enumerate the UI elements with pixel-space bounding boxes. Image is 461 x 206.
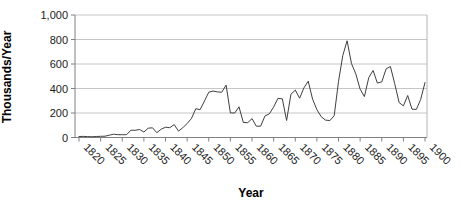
x-tick-label: 1900 bbox=[428, 141, 454, 167]
x-tick-label: 1895 bbox=[406, 141, 432, 167]
y-tick-label: 0 bbox=[62, 132, 68, 144]
x-tick-label: 1855 bbox=[233, 141, 259, 167]
x-tick-label: 1860 bbox=[255, 141, 281, 167]
y-tick-label: 200 bbox=[50, 107, 68, 119]
x-tick-label: 1875 bbox=[319, 141, 345, 167]
x-tick-label: 1890 bbox=[384, 141, 410, 167]
x-tick-label: 1840 bbox=[168, 141, 194, 167]
x-tick-label: 1870 bbox=[298, 141, 324, 167]
x-tick-label: 1820 bbox=[82, 141, 108, 167]
y-tick-label: 800 bbox=[50, 34, 68, 46]
x-tick-label: 1830 bbox=[125, 141, 151, 167]
x-tick-label: 1825 bbox=[103, 141, 129, 167]
x-tick-label: 1835 bbox=[146, 141, 172, 167]
x-tick-label: 1885 bbox=[363, 141, 389, 167]
x-tick-label: 1880 bbox=[341, 141, 367, 167]
line-chart-plot: 02004006008001,0001820182518301835184018… bbox=[0, 0, 461, 206]
x-tick-label: 1865 bbox=[276, 141, 302, 167]
y-tick-label: 1,000 bbox=[40, 9, 68, 21]
x-tick-label: 1850 bbox=[211, 141, 237, 167]
x-tick-label: 1845 bbox=[190, 141, 216, 167]
chart-figure: Thousands/Year 02004006008001,0001820182… bbox=[0, 0, 461, 206]
y-tick-label: 600 bbox=[50, 58, 68, 70]
x-axis-title: Year bbox=[238, 186, 263, 200]
y-tick-label: 400 bbox=[50, 83, 68, 95]
